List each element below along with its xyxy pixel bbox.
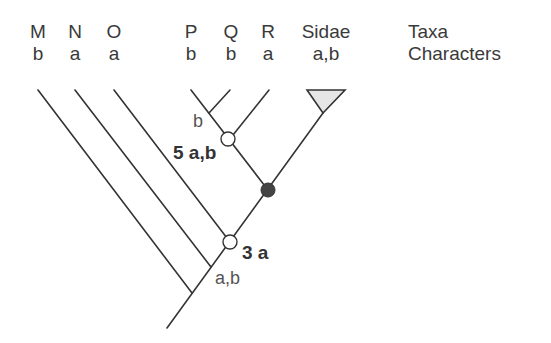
- taxon-q-name: Q: [224, 22, 239, 42]
- taxon-q-character: b: [226, 44, 237, 64]
- taxon-m-character: b: [33, 44, 44, 64]
- sidae-clade-triangle: [307, 90, 345, 113]
- label-open-node-lower: 3 a: [242, 243, 268, 263]
- branch-m: [38, 90, 192, 293]
- taxon-sidae-name: Sidae: [302, 22, 351, 42]
- label-base-node: a,b: [215, 268, 240, 288]
- taxon-n-character: a: [70, 44, 81, 64]
- branch-r: [233, 90, 269, 135]
- taxon-o-character: a: [109, 44, 120, 64]
- branch-n: [75, 90, 211, 267]
- taxon-r-character: a: [263, 44, 274, 64]
- label-pq-branch: b: [193, 111, 203, 131]
- branch-o: [114, 90, 230, 242]
- taxon-p-character: b: [186, 44, 197, 64]
- branch-q: [209, 90, 230, 113]
- taxon-o-name: O: [107, 22, 122, 42]
- taxon-sidae-character: a,b: [313, 44, 339, 64]
- taxon-r-name: R: [261, 22, 275, 42]
- taxon-p-name: P: [185, 22, 198, 42]
- taxon-n-name: N: [68, 22, 82, 42]
- taxon-m-name: M: [30, 22, 46, 42]
- legend-taxa: Taxa: [408, 22, 448, 42]
- label-open-node-upper: 5 a,b: [173, 143, 216, 163]
- open-node-upper: [221, 132, 235, 146]
- open-node-lower: [223, 235, 237, 249]
- legend-characters: Characters: [408, 44, 501, 64]
- filled-node: [261, 183, 275, 197]
